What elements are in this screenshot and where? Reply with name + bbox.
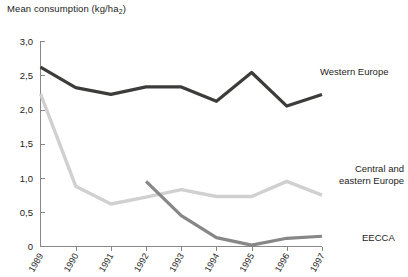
x-axis-tick-label: 1994 bbox=[202, 252, 221, 274]
line-chart-plot: 00,51,01,52,02,53,0 19891990199119921993… bbox=[0, 0, 408, 277]
series-label-eecca: EECCA bbox=[362, 232, 395, 243]
series-lines-group bbox=[41, 67, 323, 245]
y-axis-tick-label: 1,5 bbox=[20, 138, 33, 149]
y-axis-tick-label: 3,0 bbox=[20, 36, 33, 47]
series-line-central-and-eastern-europe bbox=[41, 94, 323, 204]
y-axis-tick-label: 0 bbox=[28, 241, 33, 252]
y-axis-tick-label: 0,5 bbox=[20, 207, 33, 218]
chart-container: Mean consumption (kg/ha2) 00,51,01,52,02… bbox=[0, 0, 408, 277]
y-axis-tick-labels: 00,51,01,52,02,53,0 bbox=[20, 36, 33, 253]
series-label-central-eastern-europe-line2: eastern Europe bbox=[339, 175, 404, 186]
y-axis-tick-label: 2,5 bbox=[20, 70, 33, 81]
x-axis-tick-label: 1990 bbox=[62, 252, 81, 274]
series-label-central-eastern-europe-line1: Central and bbox=[355, 163, 404, 174]
x-axis-tick-label: 1992 bbox=[132, 252, 151, 274]
y-axis-tick-label: 2,0 bbox=[20, 104, 33, 115]
x-axis-tick-label: 1995 bbox=[238, 252, 257, 274]
y-axis-tick-label: 1,0 bbox=[20, 173, 33, 184]
x-axis-tick-label: 1996 bbox=[273, 252, 292, 274]
x-axis-tick-label: 1997 bbox=[308, 252, 327, 274]
x-axis-tick-label: 1991 bbox=[97, 252, 116, 274]
x-axis-tick-label: 1993 bbox=[167, 252, 186, 274]
series-label-western-europe: Western Europe bbox=[320, 66, 388, 77]
x-axis-tick-labels: 198919901991199219931994199519961997 bbox=[27, 252, 327, 274]
x-axis-tick-marks bbox=[77, 247, 323, 251]
x-axis-tick-label: 1989 bbox=[27, 252, 46, 274]
series-line-western-europe bbox=[41, 67, 323, 106]
